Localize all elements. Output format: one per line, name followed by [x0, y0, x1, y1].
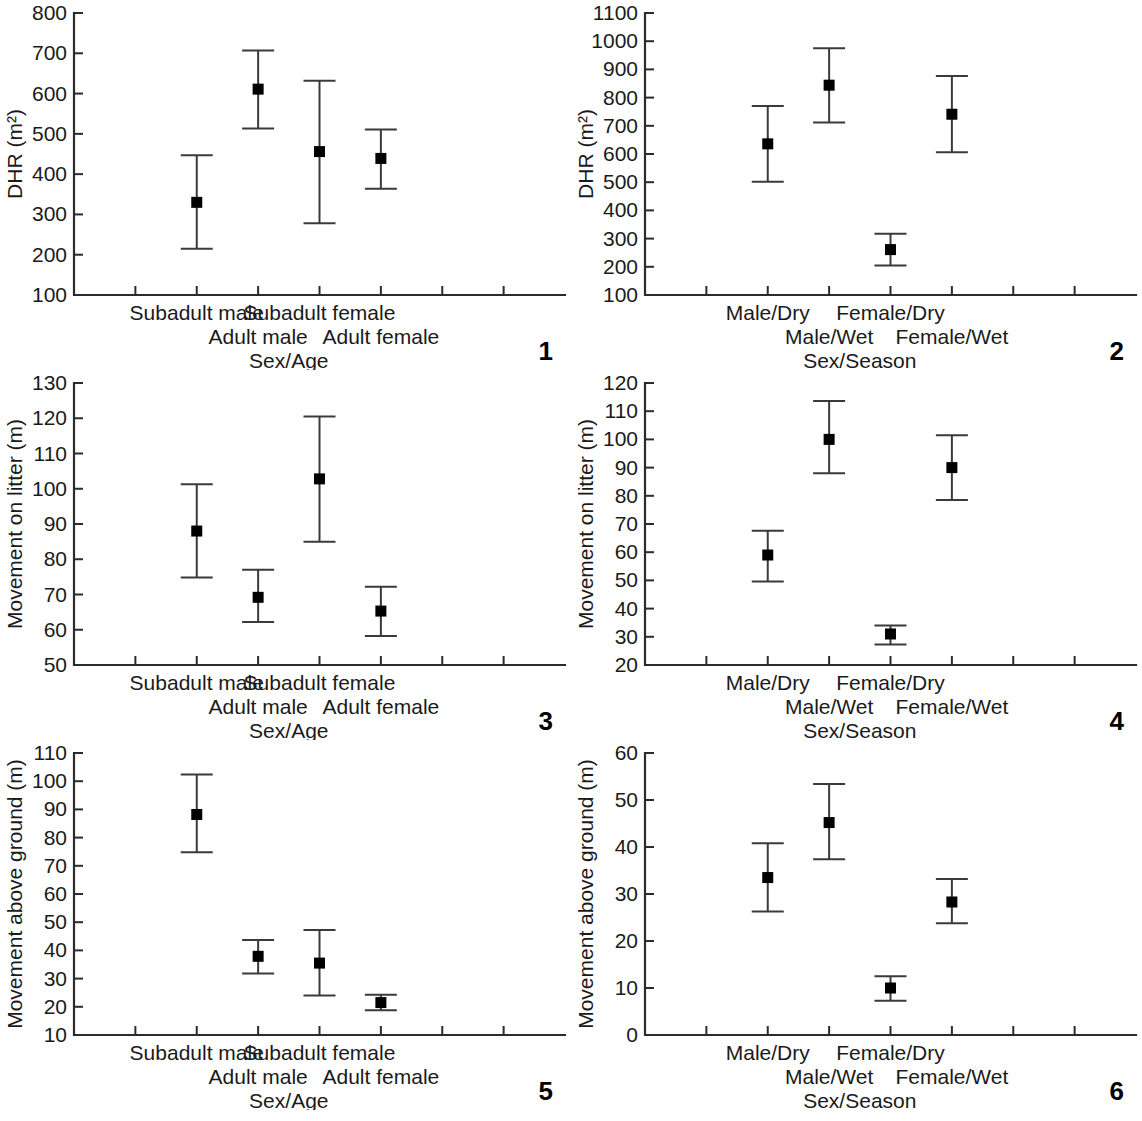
- x-axis-ticks: [706, 286, 1074, 295]
- y-tick-label: 20: [615, 653, 638, 676]
- y-tick-label: 50: [615, 788, 638, 811]
- y-tick-label: 70: [615, 512, 638, 535]
- x-axis-ticks: [135, 1026, 503, 1035]
- y-tick-label: 60: [615, 540, 638, 563]
- x-axis-ticks: [706, 656, 1074, 665]
- panel-5-plot: 102030405060708090100110Movement above g…: [0, 740, 571, 1110]
- x-category-label-female-wet: Female/Wet: [895, 325, 1008, 348]
- data-point-marker: [946, 462, 957, 473]
- x-category-label-female-dry: Female/Dry: [836, 1041, 945, 1064]
- x-axis-title: Sex/Season: [803, 349, 916, 370]
- x-axis-title: Sex/Season: [803, 1089, 916, 1110]
- y-tick-label: 700: [603, 114, 638, 137]
- x-category-labels: Male/DryMale/WetFemale/DryFemale/Wet: [726, 671, 1009, 718]
- data-point-marker: [946, 109, 957, 120]
- y-axis-title: DHR (m²): [574, 109, 597, 199]
- y-tick-label: 40: [615, 597, 638, 620]
- data-point-marker: [885, 244, 896, 255]
- y-tick-label: 90: [44, 512, 67, 535]
- panel-number: 3: [539, 706, 553, 736]
- x-category-label-subadult-female: Subadult female: [244, 671, 396, 694]
- data-point-marker: [314, 146, 325, 157]
- y-tick-label: 80: [615, 484, 638, 507]
- y-tick-label: 700: [32, 41, 67, 64]
- x-category-label-adult-female: Adult female: [323, 325, 440, 348]
- x-axis-title: Sex/Age: [249, 349, 328, 370]
- x-category-label-male-dry: Male/Dry: [726, 301, 811, 324]
- data-point-marker: [824, 80, 835, 91]
- x-axis-ticks: [135, 656, 503, 665]
- panel-2: 10020030040050060070080090010001100DHR (…: [571, 0, 1142, 370]
- y-tick-label: 90: [44, 797, 67, 820]
- panel-1: 100200300400500600700800DHR (m²)Subadult…: [0, 0, 571, 370]
- y-tick-label: 100: [603, 427, 638, 450]
- y-tick-label: 600: [603, 142, 638, 165]
- panel-number: 5: [539, 1076, 553, 1106]
- data-point-marker: [762, 550, 773, 561]
- y-axis-ticks: 100200300400500600700800: [32, 1, 83, 306]
- data-point-marker: [253, 84, 264, 95]
- y-tick-label: 80: [44, 826, 67, 849]
- y-tick-label: 50: [44, 910, 67, 933]
- panel-1-plot: 100200300400500600700800DHR (m²)Subadult…: [0, 0, 571, 370]
- panel-number: 4: [1110, 706, 1125, 736]
- x-category-label-male-dry: Male/Dry: [726, 671, 811, 694]
- y-tick-label: 30: [44, 967, 67, 990]
- x-category-label-adult-male: Adult male: [209, 325, 308, 348]
- y-tick-label: 10: [44, 1023, 67, 1046]
- y-tick-label: 120: [603, 371, 638, 394]
- data-point-marker: [762, 872, 773, 883]
- y-tick-label: 600: [32, 82, 67, 105]
- data-series: [752, 784, 968, 1001]
- y-tick-label: 900: [603, 57, 638, 80]
- data-point-marker: [375, 153, 386, 164]
- panel-4-plot: 2030405060708090100110120Movement on lit…: [571, 370, 1142, 740]
- panel-5: 102030405060708090100110Movement above g…: [0, 740, 571, 1110]
- panel-number: 2: [1110, 336, 1124, 366]
- y-axis-title: Movement above ground (m): [3, 759, 26, 1029]
- panel-6: 0102030405060Movement above ground (m)Ma…: [571, 740, 1142, 1110]
- y-tick-label: 120: [32, 406, 67, 429]
- x-axis-title: Sex/Age: [249, 719, 328, 740]
- y-tick-label: 400: [32, 162, 67, 185]
- axis-lines: [645, 383, 1136, 665]
- y-tick-label: 40: [615, 835, 638, 858]
- y-tick-label: 110: [34, 442, 67, 465]
- y-tick-label: 30: [615, 882, 638, 905]
- y-tick-label: 40: [44, 938, 67, 961]
- x-category-label-adult-female: Adult female: [323, 1065, 440, 1088]
- panel-3: 5060708090100110120130Movement on litter…: [0, 370, 571, 740]
- x-category-labels: Subadult maleAdult maleSubadult femaleAd…: [130, 301, 440, 348]
- y-tick-label: 70: [44, 854, 67, 877]
- x-axis-title: Sex/Age: [249, 1089, 328, 1110]
- y-tick-label: 200: [603, 255, 638, 278]
- y-tick-label: 60: [44, 618, 67, 641]
- data-point-marker: [253, 951, 264, 962]
- x-category-labels: Subadult maleAdult maleSubadult femaleAd…: [130, 1041, 440, 1088]
- data-point-marker: [191, 809, 202, 820]
- y-tick-label: 400: [603, 198, 638, 221]
- y-tick-label: 500: [32, 122, 67, 145]
- y-axis-title: Movement above ground (m): [574, 759, 597, 1029]
- y-tick-label: 20: [615, 929, 638, 952]
- data-point-marker: [762, 138, 773, 149]
- y-axis-title: DHR (m²): [3, 109, 26, 199]
- y-tick-label: 300: [32, 202, 67, 225]
- y-tick-label: 1000: [591, 29, 638, 52]
- y-axis-ticks: 2030405060708090100110120: [603, 371, 654, 676]
- y-axis-title: Movement on litter (m): [574, 419, 597, 629]
- data-point-marker: [314, 958, 325, 969]
- y-tick-label: 110: [34, 741, 67, 764]
- data-series: [181, 774, 397, 1010]
- x-category-label-male-wet: Male/Wet: [785, 1065, 873, 1088]
- y-tick-label: 100: [32, 769, 67, 792]
- x-category-label-subadult-female: Subadult female: [244, 1041, 396, 1064]
- data-series: [181, 416, 397, 636]
- x-category-labels: Male/DryMale/WetFemale/DryFemale/Wet: [726, 1041, 1009, 1088]
- data-point-marker: [824, 434, 835, 445]
- x-category-label-female-dry: Female/Dry: [836, 671, 945, 694]
- x-category-label-male-dry: Male/Dry: [726, 1041, 811, 1064]
- x-category-label-male-wet: Male/Wet: [785, 325, 873, 348]
- data-point-marker: [375, 997, 386, 1008]
- panel-2-plot: 10020030040050060070080090010001100DHR (…: [571, 0, 1142, 370]
